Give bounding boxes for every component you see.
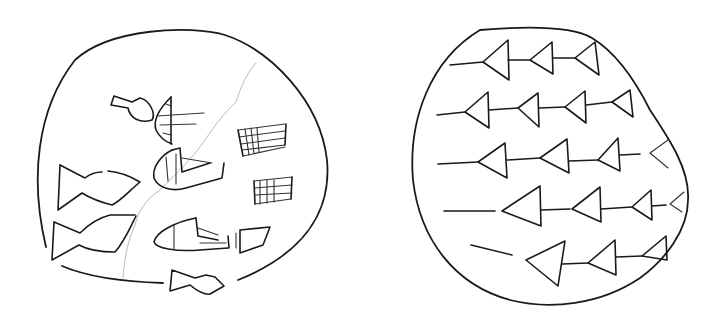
wedge-row-1 <box>450 40 599 80</box>
tablet-figure <box>0 0 716 323</box>
head-vessel-sign <box>111 96 204 144</box>
left-tablet <box>38 30 328 294</box>
diamond-sign <box>170 270 224 294</box>
parallelogram-sign <box>236 227 270 253</box>
tablet-drawing <box>0 0 716 323</box>
left-tablet-outline <box>38 30 328 280</box>
wedge-row-3 <box>438 138 668 178</box>
right-tablet-outline <box>412 28 688 305</box>
wedge-row-5 <box>471 236 667 286</box>
wedge-row-4 <box>444 186 684 226</box>
fish-sign <box>58 165 140 210</box>
left-tablet-outline-bottom <box>62 266 163 283</box>
fish-sign <box>52 215 136 260</box>
grid-sign <box>254 177 292 204</box>
grid-sign <box>238 124 286 156</box>
wedge-row-2 <box>437 90 633 128</box>
boat-sign <box>154 218 229 251</box>
right-tablet <box>412 28 688 305</box>
boat-sign <box>154 148 224 190</box>
